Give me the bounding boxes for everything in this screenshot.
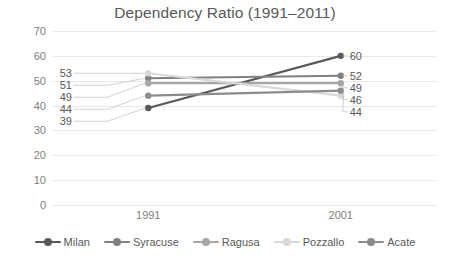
chart-container: Dependency Ratio (1991–2011) 01020304050… <box>0 0 450 264</box>
series-marker <box>145 92 151 98</box>
series-line <box>148 56 341 108</box>
legend-item-label: Pozzallo <box>303 236 345 248</box>
legend-item-ragusa[interactable]: Ragusa <box>193 236 260 248</box>
data-label: 53 <box>50 67 72 79</box>
y-axis-tick-label: 70 <box>34 25 46 37</box>
data-label: 44 <box>350 106 362 118</box>
legend-item-acate[interactable]: Acate <box>358 236 415 248</box>
legend-item-syracuse[interactable]: Syracuse <box>104 236 179 248</box>
series-marker <box>145 105 151 111</box>
y-axis-tick-label: 30 <box>34 124 46 136</box>
data-label: 39 <box>50 115 72 127</box>
y-axis-tick-label: 40 <box>34 100 46 112</box>
legend-marker-icon <box>193 237 219 247</box>
legend-marker-icon <box>104 237 130 247</box>
data-label: 44 <box>50 103 72 115</box>
label-leader-line <box>74 78 145 85</box>
gridline <box>52 205 437 206</box>
y-axis-tick-label: 50 <box>34 75 46 87</box>
data-label: 51 <box>50 79 72 91</box>
legend-item-label: Ragusa <box>222 236 260 248</box>
data-label: 49 <box>50 91 72 103</box>
data-label: 46 <box>350 94 362 106</box>
chart-legend: MilanSyracuseRagusaPozzalloAcate <box>0 236 450 248</box>
series-marker <box>145 80 151 86</box>
legend-item-milan[interactable]: Milan <box>35 236 90 248</box>
label-leader-line <box>74 96 145 110</box>
legend-item-label: Acate <box>387 236 415 248</box>
y-axis-tick-label: 0 <box>40 199 46 211</box>
data-label: 60 <box>350 50 362 62</box>
y-axis-tick-label: 10 <box>34 174 46 186</box>
data-label: 49 <box>350 82 362 94</box>
legend-item-label: Milan <box>64 236 90 248</box>
x-axis-tick-label: 2001 <box>329 209 353 221</box>
series-marker <box>338 87 344 93</box>
label-leader-line <box>343 83 348 88</box>
x-axis-tick-labels: 19912001 <box>52 209 437 227</box>
legend-marker-icon <box>358 237 384 247</box>
series-lines <box>52 31 437 205</box>
legend-item-pozzallo[interactable]: Pozzallo <box>274 236 345 248</box>
x-axis-tick-label: 1991 <box>136 209 160 221</box>
series-marker <box>145 70 151 76</box>
y-axis-tick-label: 60 <box>34 50 46 62</box>
data-label: 52 <box>350 70 362 82</box>
legend-item-label: Syracuse <box>133 236 179 248</box>
legend-marker-icon <box>274 237 300 247</box>
chart-title: Dependency Ratio (1991–2011) <box>0 4 450 22</box>
label-leader-line <box>343 96 348 112</box>
y-axis-tick-labels: 010203040506070 <box>0 31 46 205</box>
label-leader-line <box>74 108 145 121</box>
y-axis-tick-label: 20 <box>34 149 46 161</box>
plot-area: 53514944396052494644 <box>52 31 437 205</box>
legend-marker-icon <box>35 237 61 247</box>
